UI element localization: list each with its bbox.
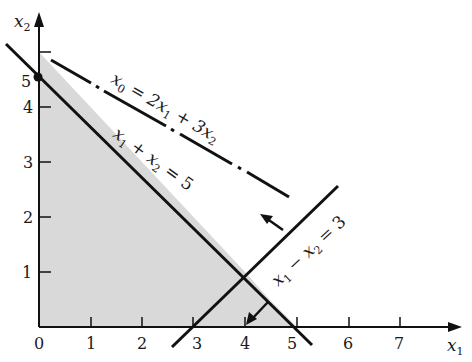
y-axis-arrow-icon (34, 12, 44, 27)
x-tick-4: 4 (240, 334, 250, 353)
x-tick-3: 3 (192, 334, 202, 353)
lp-diagram: 0 1 2 3 4 5 6 7 1 2 3 4 5 x2 x1 (0, 0, 472, 362)
x-axis-label: x1 (447, 335, 464, 358)
feasible-region (39, 52, 297, 327)
y-tick-5: 5 (21, 72, 31, 91)
y-tick-2: 2 (23, 208, 33, 227)
x-tick-5: 5 (287, 334, 297, 353)
x-tick-0: 0 (34, 334, 44, 353)
x-tick-7: 7 (394, 334, 404, 353)
y-tick-3: 3 (23, 153, 33, 172)
x-tick-labels: 0 1 2 3 4 5 6 7 (34, 334, 404, 353)
y-tick-1: 1 (22, 263, 32, 282)
constraint-label-diff: x1 − x2 = 3 (267, 211, 352, 292)
x-tick-1: 1 (86, 334, 96, 353)
vertex-dot (34, 73, 43, 82)
y-tick-labels: 1 2 3 4 5 (21, 72, 33, 282)
x-axis-arrow-icon (448, 322, 462, 332)
y-axis-label: x2 (14, 11, 31, 34)
x-tick-6: 6 (343, 334, 353, 353)
y-tick-4: 4 (23, 98, 33, 117)
x-tick-2: 2 (137, 334, 147, 353)
constraint-arrow-up-icon (260, 214, 283, 230)
